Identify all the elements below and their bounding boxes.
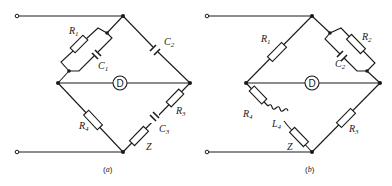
input-terminal-top-a — [15, 14, 19, 18]
label-c2-a: C2 — [164, 36, 175, 49]
node-b-bottom — [310, 150, 314, 154]
label-c2-b: C2 — [335, 58, 346, 71]
capacitor-c2-a — [150, 45, 160, 55]
label-r4-b: R4 — [242, 108, 253, 121]
detector-label-a: D — [117, 78, 124, 89]
bridge-circuits-figure: R1 C1 C2 R3 C3 R4 Z D (a) — [0, 0, 392, 186]
detector-label-b: D — [309, 78, 316, 89]
inductor-l4-b — [268, 105, 288, 112]
label-r1-b: R1 — [260, 33, 271, 46]
capacitor-c3-a — [149, 112, 159, 123]
label-c1-a: C1 — [98, 60, 108, 73]
node-b-top — [310, 14, 314, 18]
label-r1-a: R1 — [68, 25, 79, 38]
label-c3-a: C3 — [159, 123, 170, 136]
capacitor-c1-a — [92, 50, 101, 59]
caption-a: (a) — [103, 165, 113, 174]
resistor-r4-b — [249, 86, 267, 104]
node-a-left — [56, 81, 60, 85]
input-terminal-bottom-b — [205, 150, 209, 154]
node-a-right — [188, 81, 192, 85]
label-r2-b: R2 — [361, 31, 372, 44]
label-r3-a: R3 — [175, 105, 186, 118]
resistor-r1-a — [70, 35, 88, 53]
label-z-a: Z — [146, 141, 152, 152]
node-b-right — [378, 81, 382, 85]
label-r3-b: R3 — [348, 123, 359, 136]
panel-a-circuit: R1 C1 C2 R3 C3 R4 Z D (a) — [15, 14, 192, 174]
input-terminal-bottom-a — [15, 150, 19, 154]
input-terminal-top-b — [205, 14, 209, 18]
node-b-left — [244, 81, 248, 85]
panel-b-circuit: R1 R2 C2 R3 R4 L4 Z D (b) — [205, 14, 382, 174]
node-a-top — [121, 14, 125, 18]
node-a-bottom — [121, 150, 125, 154]
caption-b: (b) — [305, 165, 315, 174]
label-l4-b: L4 — [271, 118, 282, 131]
label-r4-a: R4 — [78, 120, 89, 133]
label-z-b: Z — [287, 141, 293, 152]
